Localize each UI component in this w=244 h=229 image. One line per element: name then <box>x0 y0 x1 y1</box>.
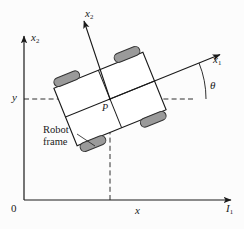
robot-frame-caption-line2: frame <box>43 136 69 148</box>
x-coordinate-label: x <box>135 205 140 216</box>
body-axis-x2-label: x2 <box>85 8 93 20</box>
angle-arc-icon-theta <box>199 63 206 99</box>
y-coordinate-label: y <box>12 92 17 103</box>
heading-angle-label: θ <box>210 80 215 91</box>
global-horizontal-axis-label: I1 <box>226 203 233 215</box>
robot-frame-caption: Robot frame <box>43 124 69 149</box>
reference-point-label: P <box>102 103 108 113</box>
robot-frame-caption-line1: Robot <box>43 124 69 136</box>
robot-kinematics-figure: x2 I1 0 x y x2 x1 θ P Robot frame <box>0 0 244 229</box>
origin-label: 0 <box>11 203 17 214</box>
reference-point-marker <box>109 98 111 100</box>
global-vertical-axis-label: x2 <box>31 32 39 44</box>
body-axis-x1-label: x1 <box>213 54 221 66</box>
